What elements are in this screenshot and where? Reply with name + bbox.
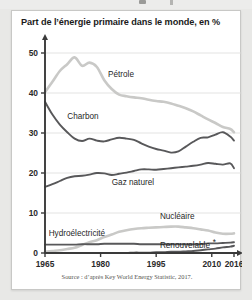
- y-tick-label-20: 20: [29, 168, 39, 178]
- series-label-gaz-naturel: Gaz naturel: [112, 178, 155, 187]
- x-tick-label-1980: 1980: [91, 259, 110, 269]
- series-label-hydro-lectricit-: Hydroélectricité: [49, 229, 106, 238]
- chart-source-note: Source : d’après Key World Energy Statis…: [12, 273, 242, 280]
- artifact-mark-right: [170, 0, 173, 5]
- x-tick-label-1965: 1965: [36, 259, 55, 269]
- page-top-artifact: [0, 0, 252, 9]
- x-tick-label-2010: 2010: [202, 259, 221, 269]
- axes-group: [41, 34, 242, 257]
- y-tick-label-40: 40: [29, 88, 39, 98]
- series-label-p-trole: Pétrole: [108, 70, 134, 79]
- x-tick-label-2016: 2016: [225, 259, 242, 269]
- y-tick-label-10: 10: [29, 208, 39, 218]
- gridlines-group: [45, 53, 242, 253]
- series-line-charbon: [45, 102, 234, 153]
- x-tick-label-1995: 1995: [147, 259, 166, 269]
- line-chart-svg: 01020304050 19651980199520102016 Pétrole…: [12, 11, 242, 291]
- x-tick-labels-group: 19651980199520102016: [36, 259, 242, 269]
- page-root: Part de l’énergie primaire dans le monde…: [0, 0, 252, 300]
- y-tick-label-30: 30: [29, 128, 39, 138]
- x-axis-arrow-icon: [237, 250, 242, 256]
- y-tick-labels-group: 01020304050: [29, 48, 39, 258]
- chart-card: Part de l’énergie primaire dans le monde…: [11, 10, 241, 290]
- chart-plot-area: 01020304050 19651980199520102016 Pétrole…: [12, 11, 242, 291]
- series-label-renouvelable: Renouvelable: [160, 241, 211, 250]
- artifact-mark-left: [139, 0, 146, 4]
- series-label-charbon: Charbon: [67, 112, 99, 121]
- y-tick-label-0: 0: [33, 248, 38, 258]
- series-lines-group: [45, 57, 234, 253]
- y-axis-arrow-icon: [42, 34, 48, 40]
- y-tick-label-50: 50: [29, 48, 39, 58]
- series-label-nucl-aire: Nucléaire: [160, 212, 195, 221]
